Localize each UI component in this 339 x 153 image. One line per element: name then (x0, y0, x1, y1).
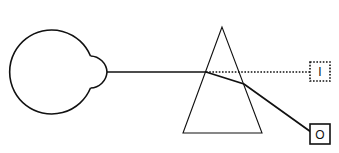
object-box: O (310, 124, 330, 144)
object-label: O (315, 128, 324, 142)
eye-cornea (91, 56, 108, 88)
image-label: I (318, 65, 321, 79)
eye-globe (10, 30, 91, 114)
eye-icon (10, 30, 107, 114)
prism-refraction-diagram: I O (0, 0, 339, 153)
image-box: I (310, 62, 330, 81)
prism (183, 27, 262, 133)
